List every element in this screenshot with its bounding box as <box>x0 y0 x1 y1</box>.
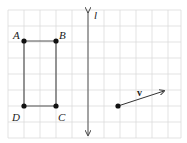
label-b: B <box>59 29 66 41</box>
label-c: C <box>58 111 66 123</box>
point-d <box>21 103 26 108</box>
grid <box>8 10 181 138</box>
diagram-canvas: A B C D l v <box>0 0 187 143</box>
point-a <box>21 38 26 43</box>
label-d: D <box>11 111 20 123</box>
point-b <box>53 38 58 43</box>
label-v: v <box>137 87 142 98</box>
point-c <box>53 103 58 108</box>
line-l: l <box>88 9 97 135</box>
label-l: l <box>94 9 97 21</box>
label-a: A <box>12 29 20 41</box>
vector-start-point <box>115 103 120 108</box>
rectangle-abcd: A B C D <box>11 29 66 123</box>
